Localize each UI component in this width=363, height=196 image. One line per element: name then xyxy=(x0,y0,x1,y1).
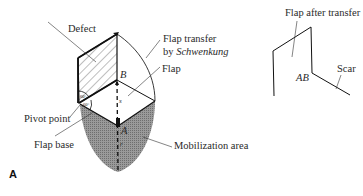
flap-after-transfer-label: Flap after transfer xyxy=(285,7,361,18)
segment-r-label: r xyxy=(120,140,123,148)
defect-label: Defect xyxy=(68,23,96,34)
flap-label: Flap xyxy=(162,63,181,74)
flap-after-transfer-shape xyxy=(273,27,350,96)
flap-base-label: Flap base xyxy=(34,139,74,150)
point-a-label: A xyxy=(120,125,128,136)
ab-label: AB xyxy=(295,72,309,83)
point-b-label: B xyxy=(120,69,127,80)
flap-transfer-label-line2: by Schwenkung xyxy=(163,46,229,57)
pivot-point-label: Pivot point xyxy=(24,113,70,124)
flap-diagram: 60° 60° Defect Flap transfer by Schwenku… xyxy=(0,0,363,196)
flap-transfer-label-line1: Flap transfer xyxy=(163,33,217,44)
angle-label-bottom: 60° xyxy=(83,102,90,107)
panel-label: A xyxy=(9,168,17,180)
mobilization-area-label: Mobilization area xyxy=(174,140,249,151)
angle-label-top: 60° xyxy=(80,94,87,99)
segment-s-label: s xyxy=(119,97,122,105)
scar-label: Scar xyxy=(337,63,356,74)
